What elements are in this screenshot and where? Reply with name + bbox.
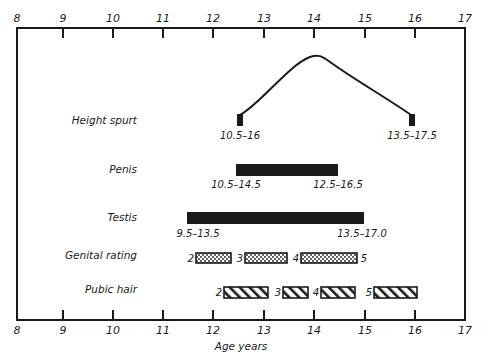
bottom-tick-label: 8 — [14, 324, 21, 337]
genital-stage-label: 5 — [361, 253, 367, 264]
penis-bar — [236, 164, 338, 176]
penis-start-range: 10.5–14.5 — [211, 179, 261, 190]
height-spurt-end-range: 13.5–17.5 — [387, 130, 437, 141]
bottom-tick-label: 17 — [458, 324, 472, 337]
x-axis-title: Age years — [214, 340, 268, 352]
pubic-stage-5-bar — [374, 287, 417, 298]
bottom-tick-label: 13 — [257, 324, 271, 337]
top-tick-label: 15 — [358, 12, 372, 25]
top-tick-label: 12 — [206, 12, 220, 25]
pubic-stage-label: 2 — [216, 287, 222, 298]
top-tick-label: 17 — [458, 12, 472, 25]
row-label-penis: Penis — [109, 163, 137, 175]
height-spurt-end-marker — [409, 114, 415, 126]
genital-stage-label: 3 — [237, 253, 243, 264]
height-spurt-curve — [237, 56, 415, 126]
penis-end-range: 12.5–16.5 — [313, 179, 363, 190]
row-label-genital-rating: Genital rating — [65, 249, 137, 261]
pubic-stage-label: 4 — [313, 287, 319, 298]
row-label-height-spurt: Height spurt — [72, 114, 138, 126]
genital-stage-label: 4 — [293, 253, 299, 264]
genital-stage-label: 2 — [188, 253, 194, 264]
top-tick-labels: 8 9 10 11 12 13 14 15 16 17 — [14, 12, 473, 25]
pubic-stage-label: 3 — [275, 287, 281, 298]
genital-stage-2-bar — [196, 253, 231, 263]
bottom-axis — [63, 310, 415, 320]
genital-stage-3-bar — [245, 253, 287, 263]
pubic-stage-2-bar — [224, 287, 268, 298]
bottom-tick-label: 9 — [60, 324, 67, 337]
bottom-tick-label: 16 — [408, 324, 422, 337]
top-tick-label: 13 — [257, 12, 271, 25]
pubic-stage-4-bar — [321, 287, 355, 298]
top-axis — [63, 28, 415, 38]
pubic-hair-stages: 2 3 4 5 — [216, 287, 417, 298]
bottom-tick-label: 10 — [106, 324, 120, 337]
bottom-tick-label: 15 — [358, 324, 372, 337]
puberty-timeline-chart: 8 9 10 11 12 13 14 15 16 17 8 9 10 11 12… — [0, 0, 488, 363]
top-tick-label: 10 — [106, 12, 120, 25]
top-tick-label: 14 — [307, 12, 321, 25]
testis-start-range: 9.5–13.5 — [176, 228, 219, 239]
top-tick-label: 11 — [156, 12, 170, 25]
height-spurt-start-marker — [237, 114, 243, 126]
bottom-tick-label: 12 — [206, 324, 220, 337]
height-spurt-start-range: 10.5–16 — [220, 130, 260, 141]
genital-rating-stages: 2 3 4 5 — [188, 253, 367, 264]
bottom-tick-label: 11 — [156, 324, 170, 337]
top-tick-label: 8 — [14, 12, 21, 25]
pubic-stage-3-bar — [283, 287, 308, 298]
testis-end-range: 13.5–17.0 — [337, 228, 387, 239]
testis-bar — [187, 212, 364, 224]
row-label-testis: Testis — [107, 211, 137, 223]
genital-stage-4-bar — [301, 253, 357, 263]
bottom-tick-labels: 8 9 10 11 12 13 14 15 16 17 — [14, 324, 473, 337]
bottom-tick-label: 14 — [307, 324, 321, 337]
pubic-stage-label: 5 — [366, 287, 372, 298]
top-tick-label: 16 — [408, 12, 422, 25]
row-label-pubic-hair: Pubic hair — [85, 283, 138, 295]
top-tick-label: 9 — [60, 12, 67, 25]
